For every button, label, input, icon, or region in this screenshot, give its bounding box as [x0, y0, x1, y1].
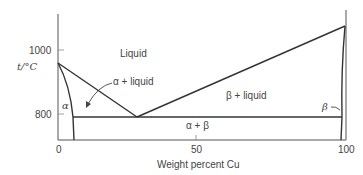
region-alpha-liquid: α + liquid [113, 77, 154, 87]
region-beta: β [322, 102, 328, 112]
y-axis-label-text: t/°C [17, 61, 37, 72]
region-alpha-beta: α + β [186, 121, 209, 131]
beta-solidus-solvus [341, 26, 345, 140]
arrow-head-icon [86, 101, 91, 108]
y-tick-label-1000: 1000 [29, 46, 51, 56]
x-axis-label: Weight percent Cu [157, 160, 240, 170]
region-alpha: α [62, 101, 69, 111]
x-tick-label-50: 50 [191, 145, 202, 155]
region-liquid: Liquid [120, 49, 147, 59]
right-liquidus [137, 26, 345, 117]
beta-pointer [331, 107, 340, 110]
y-axis-label: t/°C [17, 62, 37, 72]
x-tick-label-0: 0 [56, 145, 62, 155]
y-tick-label-800: 800 [35, 110, 52, 120]
left-liquidus [58, 63, 137, 117]
region-beta-liquid: β + liquid [226, 91, 267, 101]
phase-diagram-plot [0, 0, 363, 175]
x-tick-label-100: 100 [338, 145, 355, 155]
